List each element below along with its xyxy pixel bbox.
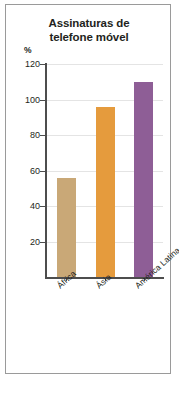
y-axis-tick-mark: [40, 171, 46, 172]
y-axis-tick-mark: [40, 242, 46, 243]
y-axis-tick-mark: [40, 100, 46, 101]
plot-area: [47, 64, 163, 277]
y-axis-tick-label: 100: [0, 95, 40, 105]
y-axis-tick-labels: 20406080100120: [0, 0, 40, 393]
y-axis-tick-mark: [40, 64, 46, 65]
y-axis-tick-mark: [40, 206, 46, 207]
y-axis-tick-label: 20: [0, 237, 40, 247]
y-axis-tick-label: 40: [0, 201, 40, 211]
y-axis-tick-mark: [40, 135, 46, 136]
bar: [134, 82, 153, 277]
y-axis-tick-label: 60: [0, 166, 40, 176]
y-axis-tick-label: 120: [0, 59, 40, 69]
bar: [96, 107, 115, 277]
bar: [57, 178, 76, 277]
gridline: [47, 64, 163, 65]
y-axis-tick-label: 80: [0, 130, 40, 140]
